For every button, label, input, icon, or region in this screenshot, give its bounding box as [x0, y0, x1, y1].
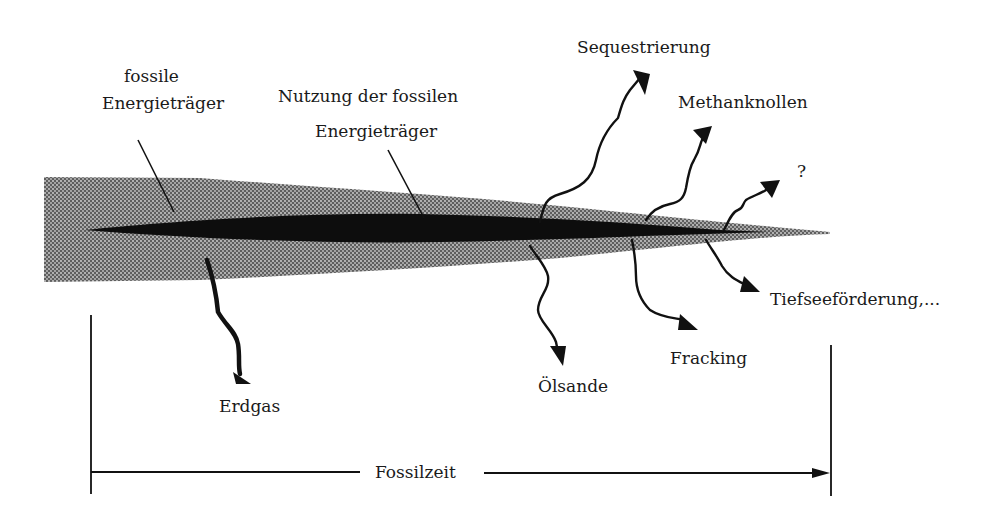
label-natural-gas: Erdgas	[219, 396, 280, 416]
arrowhead-oil-sands-icon	[550, 346, 566, 366]
fossil-era-diagram: fossile Energieträger Nutzung der fossil…	[0, 0, 1001, 514]
arrow-oil-sands	[530, 246, 558, 352]
label-fossil-line1: fossile	[124, 66, 179, 86]
label-sequestration: Sequestrierung	[577, 37, 711, 57]
label-usage-line1: Nutzung der fossilen	[278, 86, 458, 106]
arrowhead-fracking-icon	[678, 314, 698, 330]
arrowhead-deep-sea-icon	[740, 276, 760, 292]
arrowhead-unknown-icon	[760, 180, 780, 198]
label-methane-hydrates: Methanknollen	[678, 92, 808, 112]
label-usage-line2: Energieträger	[315, 121, 438, 141]
arrow-deep-sea	[706, 240, 744, 284]
label-deep-sea: Tiefseeförderung,...	[770, 289, 940, 309]
label-oil-sands: Ölsande	[538, 376, 608, 396]
arrow-sequestration	[540, 78, 640, 222]
arrow-fracking	[632, 240, 684, 320]
label-fracking: Fracking	[670, 348, 747, 368]
timeline-arrowhead-icon	[812, 468, 830, 478]
label-unknown: ?	[797, 161, 806, 181]
arrow-methane-hydrates	[646, 134, 706, 220]
label-fossil-line2: Energieträger	[102, 93, 225, 113]
label-timeline: Fossilzeit	[375, 462, 456, 482]
